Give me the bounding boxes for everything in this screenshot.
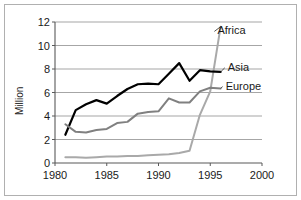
x-tick-label: 1980: [43, 169, 67, 181]
y-tick-label: 0: [20, 157, 50, 169]
tick-marks: [52, 22, 262, 166]
x-tick-label: 1985: [95, 169, 119, 181]
leader-line-asia: [221, 68, 225, 72]
y-tick-label: 4: [20, 110, 50, 122]
x-tick-label: 1995: [198, 169, 222, 181]
y-tick-label: 10: [20, 40, 50, 52]
y-tick-label: 6: [20, 87, 50, 99]
x-tick-label: 1990: [146, 169, 170, 181]
y-tick-label: 12: [20, 16, 50, 28]
x-tick-label: 2000: [250, 169, 274, 181]
y-tick-label: 8: [20, 63, 50, 75]
y-tick-label: 2: [20, 134, 50, 146]
chart-figure: Million 024681012 19801985199019952000 A…: [0, 0, 301, 200]
series-label-europe: Europe: [226, 80, 261, 92]
series-label-asia: Asia: [228, 61, 249, 73]
series-label-africa: Africa: [217, 24, 245, 36]
